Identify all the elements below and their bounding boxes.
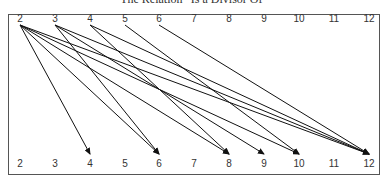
arrow-2-to-4	[20, 25, 90, 154]
top-node-9: 9	[261, 14, 267, 24]
bottom-node-8: 8	[226, 159, 232, 169]
bottom-node-10: 10	[293, 159, 304, 169]
bottom-node-2: 2	[17, 159, 23, 169]
arrow-2-to-12	[20, 25, 369, 154]
top-node-4: 4	[87, 14, 93, 24]
bottom-node-9: 9	[261, 159, 267, 169]
arrow-3-to-6	[55, 25, 159, 154]
top-node-11: 11	[329, 14, 339, 24]
arrow-4-to-12	[90, 25, 369, 154]
top-node-5: 5	[122, 14, 128, 24]
top-node-10: 10	[293, 14, 304, 24]
arrow-4-to-8	[90, 25, 229, 154]
bottom-node-3: 3	[52, 159, 58, 169]
top-node-3: 3	[52, 14, 58, 24]
top-node-7: 7	[191, 14, 197, 24]
bottom-node-4: 4	[87, 159, 93, 169]
top-node-2: 2	[17, 14, 23, 24]
bottom-node-7: 7	[191, 159, 197, 169]
top-node-12: 12	[363, 14, 374, 24]
arrow-2-to-6	[20, 25, 159, 154]
bottom-node-12: 12	[363, 159, 374, 169]
bottom-node-6: 6	[156, 159, 162, 169]
arrow-2-to-8	[20, 25, 229, 154]
arrow-5-to-10	[125, 25, 299, 154]
top-node-8: 8	[226, 14, 232, 24]
bottom-node-5: 5	[122, 159, 128, 169]
arrow-6-to-12	[159, 25, 369, 154]
bottom-node-11: 11	[329, 159, 339, 169]
top-node-6: 6	[156, 14, 162, 24]
